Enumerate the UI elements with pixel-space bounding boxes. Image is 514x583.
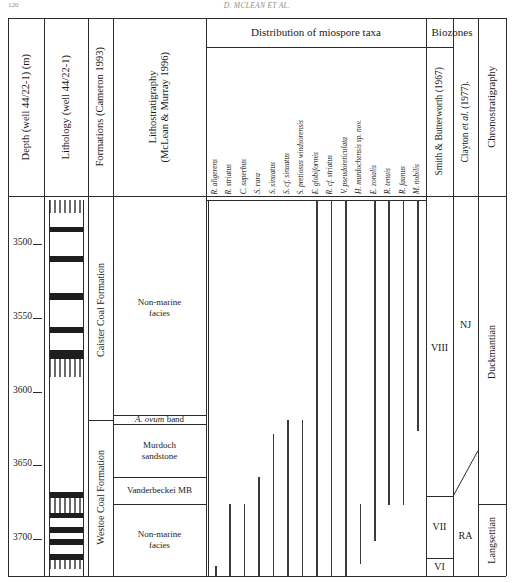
range-bar-4 xyxy=(273,434,275,576)
header-smith-butterworth: Smith & Butterworth (1967) xyxy=(426,47,453,196)
depth-tick-label-3600: 3600 xyxy=(10,385,32,395)
lithology-segment-blank-8 xyxy=(49,300,83,327)
column-rule-dist xyxy=(206,18,207,576)
formation-1-label: Westoe Coal Formation xyxy=(95,450,107,545)
taxon-label-text: R. striatus xyxy=(225,164,234,194)
taxon-label-text: S. rara xyxy=(254,173,263,194)
taxon-label-7: E. globiformis xyxy=(309,51,323,194)
taxon-label-10: H. murdochensis sp. nov. xyxy=(353,51,367,194)
chrono-Langsettian: Langsettian xyxy=(478,504,506,576)
lithostrat-divider-2 xyxy=(113,424,206,425)
lithostrat-divider-4 xyxy=(113,504,206,505)
range-bar-6 xyxy=(302,420,304,576)
biozone-sb-VII: VII xyxy=(426,496,453,558)
biozone-clayton-NJ: NJ xyxy=(453,200,478,451)
header-biozones: Biozones xyxy=(426,18,478,47)
lithostrat-unit-4-label: Non-marinefacies xyxy=(138,529,181,550)
biozone-sb-VII-label: VII xyxy=(433,521,447,533)
header-formations: Formations (Cameron 1993) xyxy=(88,18,113,196)
lithology-right-edge xyxy=(83,200,84,576)
lithology-segment-sand-14 xyxy=(49,420,83,478)
range-bar-7 xyxy=(316,200,318,576)
lithology-left-edge xyxy=(49,200,50,576)
range-bar-0 xyxy=(215,566,217,576)
lithology-segment-sand-6 xyxy=(49,271,83,293)
taxon-label-4: S. sinuatus xyxy=(266,51,280,194)
header-clayton-label: Clayton et al. (1977). xyxy=(460,81,471,163)
taxon-label-text: R. tenuis xyxy=(384,168,393,194)
depth-tick-3700 xyxy=(33,539,42,540)
header-lithology-label: Lithology (well 44/22-1) xyxy=(60,55,72,159)
frame-right xyxy=(506,18,507,576)
taxon-label-text: V. pseudoreticulata xyxy=(341,137,350,194)
depth-tick-label-3550: 3550 xyxy=(10,311,32,321)
taxon-label-12: R. tenuis xyxy=(381,51,395,194)
lithology-segment-coal-7 xyxy=(49,293,83,300)
figure-stratigraphic-range-chart: Depth (well 44/22-1) (m)Lithology (well … xyxy=(0,0,514,583)
lithostrat-divider-1 xyxy=(113,415,206,416)
formation-1: Westoe Coal Formation xyxy=(88,420,113,576)
taxon-label-9: V. pseudoreticulata xyxy=(338,51,352,194)
taxon-label-text: H. murdochensis sp. nov. xyxy=(355,120,364,194)
range-bar-5 xyxy=(287,420,289,576)
range-bar-11 xyxy=(374,200,376,541)
header-biozones-label: Biozones xyxy=(432,26,473,39)
header-lithology: Lithology (well 44/22-1) xyxy=(44,18,88,196)
taxon-label-text: S. sinuatus xyxy=(269,162,278,194)
lithostrat-unit-3-label: Vanderbeckei MB xyxy=(127,485,192,496)
range-bar-10 xyxy=(360,504,362,564)
lithology-segment-sand-26 xyxy=(49,569,83,576)
chrono-Duckmantian: Duckmantian xyxy=(478,200,506,504)
formation-0: Caister Coal Formation xyxy=(88,200,113,420)
lithology-segment-silt-0 xyxy=(49,200,83,213)
lithology-segment-silt-17 xyxy=(49,498,83,513)
lithostrat-unit-2: Murdochsandstone xyxy=(113,424,206,477)
lithology-segment-blank-10 xyxy=(49,333,83,351)
formation-divider-1 xyxy=(88,420,113,421)
range-bar-9 xyxy=(345,200,347,576)
biozone-sb-vii-top xyxy=(426,496,453,497)
header-smith-butterworth-label: Smith & Butterworth (1967) xyxy=(434,67,445,175)
lithology-segment-coal-11 xyxy=(49,350,83,359)
distribution-header-bottom xyxy=(206,47,453,48)
header-lithostratigraphy-label: Lithostratigraphy(McLean & Murray 1996) xyxy=(147,52,171,163)
biozone-clayton-NJ-label: NJ xyxy=(460,319,471,331)
lithostrat-unit-0-label: Non-marinefacies xyxy=(138,297,181,318)
lithology-segment-silt-12 xyxy=(49,359,83,377)
taxon-label-text: R. faunus xyxy=(399,166,408,194)
lithology-segment-blank-23 xyxy=(49,545,83,554)
header-distribution: Distribution of miospore taxa xyxy=(206,18,426,47)
header-band-bottom xyxy=(8,196,506,197)
depth-tick-label-3500: 3500 xyxy=(10,237,32,247)
taxon-label-14: M. nobilis xyxy=(410,51,424,194)
range-bar-2 xyxy=(244,504,246,576)
taxon-label-text: M. nobilis xyxy=(413,164,422,194)
taxon-label-text: S. pretiosus windsorensis xyxy=(297,120,306,194)
taxon-label-text: E. zonalis xyxy=(370,165,379,194)
lithology-segment-blank-1 xyxy=(49,213,83,226)
chrono-divider-1 xyxy=(478,504,506,505)
taxon-label-11: E. zonalis xyxy=(367,51,381,194)
depth-tick-3650 xyxy=(33,465,42,466)
lithostrat-unit-2-label: Murdochsandstone xyxy=(142,440,178,461)
header-depth-label: Depth (well 44/22-1) (m) xyxy=(20,54,32,160)
lithology-segment-blank-5 xyxy=(49,262,83,271)
lithology-segment-sand-13 xyxy=(49,377,83,420)
taxon-label-0: R. aligerens xyxy=(208,51,222,194)
header-clayton: Clayton et al. (1977). xyxy=(453,47,478,196)
lithology-segment-blank-19 xyxy=(49,518,83,527)
lithostrat-divider-3 xyxy=(113,477,206,478)
taxon-label-6: S. pretiosus windsorensis xyxy=(295,51,309,194)
taxon-label-text: E. globiformis xyxy=(312,152,321,194)
frame-bottom xyxy=(8,576,506,577)
taxon-label-8: R. cf. striatus xyxy=(324,51,338,194)
biozone-sb-VIII: VIII xyxy=(426,200,453,496)
lithostrat-unit-4: Non-marinefacies xyxy=(113,504,206,576)
plot-inner-left xyxy=(208,200,209,576)
biozone-clayton-RA: RA xyxy=(453,496,478,576)
header-formations-label: Formations (Cameron 1993) xyxy=(94,47,106,167)
running-head: D. MCLEAN ET AL. xyxy=(0,1,514,10)
lithology-segment-sand-3 xyxy=(49,232,83,256)
biozone-sb-VI: VI xyxy=(426,558,453,576)
taxon-label-1: R. striatus xyxy=(222,51,236,194)
